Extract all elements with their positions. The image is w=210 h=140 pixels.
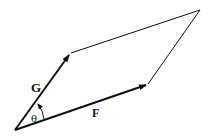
vector-g [15, 55, 69, 130]
label-f: F [92, 106, 99, 120]
right-side [148, 10, 200, 84]
theta-arc [38, 104, 44, 119]
top-side [71, 10, 200, 53]
parallelogram-diagram: G θ F [0, 0, 210, 140]
label-g: G [31, 80, 41, 95]
label-theta: θ [31, 113, 37, 124]
